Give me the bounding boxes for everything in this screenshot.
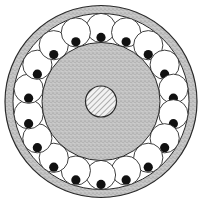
ball: [144, 163, 153, 172]
ball: [33, 70, 42, 79]
ball: [33, 143, 42, 152]
ball: [122, 37, 131, 46]
ball: [122, 175, 131, 184]
ball: [71, 175, 80, 184]
ball: [49, 163, 58, 172]
bearing-diagram: [0, 0, 202, 203]
ball: [96, 180, 105, 189]
ball: [96, 33, 105, 42]
center-core: [86, 86, 117, 117]
ball: [24, 94, 33, 103]
ball: [71, 37, 80, 46]
ball: [49, 50, 58, 59]
ball: [24, 119, 33, 128]
